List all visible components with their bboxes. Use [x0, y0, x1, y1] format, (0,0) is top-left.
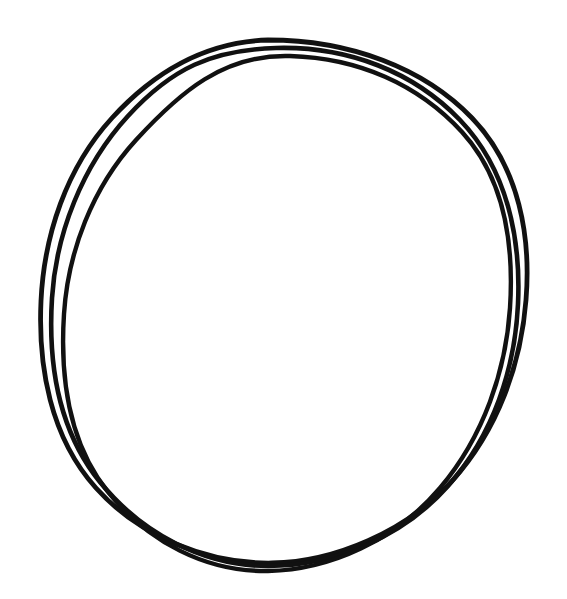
- circle-sketch-svg: [0, 0, 567, 599]
- canvas-background: [0, 0, 567, 599]
- sketch-canvas: [0, 0, 567, 599]
